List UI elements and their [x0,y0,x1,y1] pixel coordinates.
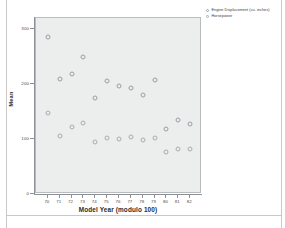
scatter-chart: 0100200300 Mean Model Year (modulo 100) … [0,0,285,228]
x-axis-tick-label: 80 [163,199,168,204]
data-point [164,149,169,154]
x-axis-tick-label: 82 [187,199,192,204]
x-axis-tick [82,194,83,198]
data-point [117,137,122,142]
x-axis-tick-label: 72 [68,199,73,204]
x-axis-tick [94,194,95,198]
x-axis-tick [189,194,190,198]
legend-item[interactable]: Horsepower [206,14,280,19]
data-point [176,147,181,152]
data-point [117,83,122,88]
x-axis-tick [71,194,72,198]
y-axis-title: Mean [8,79,14,119]
y-axis-tick [30,83,35,84]
x-axis-tick-label: 70 [44,199,49,204]
data-point [128,86,133,91]
data-point [45,35,50,40]
chart-legend: Engine Displacement (cu. inches)Horsepow… [206,8,280,20]
legend-item-label: Horsepower [211,14,232,19]
x-axis-tick [59,194,60,198]
y-axis-tick [30,193,35,194]
x-axis-tick [154,194,155,198]
data-point [57,134,62,139]
plot-area [35,17,201,193]
y-axis-tick [30,138,35,139]
x-axis-tick [130,194,131,198]
data-points-layer [36,18,200,192]
x-axis-tick-label: 81 [175,199,180,204]
y-axis-tick-label: 200 [21,81,29,86]
x-axis-tick-label: 74 [92,199,97,204]
y-axis-line [34,17,35,194]
x-axis-tick-label: 71 [56,199,61,204]
legend-circle-icon [206,9,209,12]
x-axis-tick-label: 73 [80,199,85,204]
x-axis-tick-label: 75 [104,199,109,204]
x-axis-tick [142,194,143,198]
y-axis-tick [30,28,35,29]
data-point [140,137,145,142]
x-axis-tick-label: 78 [139,199,144,204]
data-point [69,125,74,130]
x-axis-tick-label: 76 [116,199,121,204]
x-axis-tick [177,194,178,198]
data-point [164,127,169,132]
x-axis-tick [118,194,119,198]
y-axis-tick-label: 100 [21,136,29,141]
data-point [69,72,74,77]
legend-item-label: Engine Displacement (cu. inches) [211,8,269,13]
x-axis-tick [47,194,48,198]
x-axis-title: Model Year (modulo 100) [35,206,201,213]
data-point [81,54,86,59]
data-point [176,117,181,122]
x-axis-tick [165,194,166,198]
data-point [105,79,110,84]
data-point [152,136,157,141]
data-point [57,76,62,81]
data-point [140,93,145,98]
data-point [128,135,133,140]
y-axis-tick-labels: 0100200300 [12,0,29,228]
x-axis-tick [106,194,107,198]
data-point [45,111,50,116]
data-point [105,136,110,141]
legend-circle-icon [206,15,209,18]
legend-item[interactable]: Engine Displacement (cu. inches) [206,8,280,13]
data-point [188,146,193,151]
data-point [81,120,86,125]
y-axis-tick-label: 300 [21,26,29,31]
y-axis-tick-label: 0 [26,191,29,196]
data-point [93,95,98,100]
x-axis-tick-label: 79 [151,199,156,204]
x-axis-tick-label: 77 [127,199,132,204]
chart-page: 0100200300 Mean Model Year (modulo 100) … [0,0,285,228]
data-point [152,78,157,83]
data-point [93,139,98,144]
data-point [188,121,193,126]
